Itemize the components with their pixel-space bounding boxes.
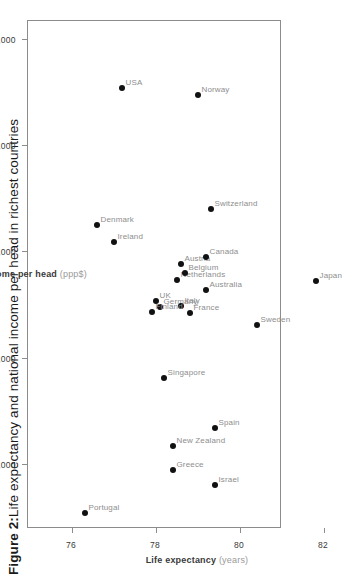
income-tick-label: 40,000 <box>0 35 20 45</box>
y-axis-title: Gross national income per head (ppp$) <box>0 269 54 279</box>
data-point-label: Finland <box>155 302 182 311</box>
data-point-label: Italy <box>185 295 200 304</box>
income-tick-label: 30,000 <box>0 248 20 258</box>
income-tick-label: 20,000 <box>0 460 20 470</box>
life-expectancy-tick-label: 82 <box>316 540 330 550</box>
income-tick-mark <box>22 464 27 465</box>
data-point <box>187 310 193 316</box>
data-point <box>212 482 218 488</box>
data-point <box>111 239 117 245</box>
data-point-label: Norway <box>202 85 230 94</box>
data-point <box>82 510 88 516</box>
x-axis-title-text: Life expectancy <box>146 555 217 565</box>
data-point-label: Denmark <box>101 214 135 223</box>
data-point-label: USA <box>126 77 143 86</box>
data-point-label: Canada <box>210 246 239 255</box>
income-tick-label: 35,000 <box>0 141 20 151</box>
life-expectancy-tick-label: 78 <box>148 540 162 550</box>
life-expectancy-tick-label: 80 <box>232 540 246 550</box>
life-expectancy-tick-mark <box>240 528 241 533</box>
income-tick-mark <box>22 145 27 146</box>
income-tick-mark <box>22 358 27 359</box>
data-point <box>170 443 176 449</box>
data-point-label: Belgium <box>189 262 219 271</box>
income-tick-label: 25,000 <box>0 354 20 364</box>
data-point-label: Greece <box>176 460 203 469</box>
data-point <box>149 309 155 315</box>
data-point-label: Sweden <box>260 314 290 323</box>
data-point <box>208 206 214 212</box>
income-tick-mark <box>22 252 27 253</box>
data-point-label: Australia <box>210 279 242 288</box>
x-axis-unit: (years) <box>219 555 248 565</box>
scatter-chart: 20,00025,00030,00035,00040,00076788082 P… <box>0 0 353 577</box>
y-axis-title-text: Gross national income per head <box>0 269 57 279</box>
data-point <box>254 322 260 328</box>
data-point-label: UK <box>160 291 171 300</box>
data-point <box>313 278 319 284</box>
data-point-label: Japan <box>319 271 342 280</box>
data-point-label: Israel <box>218 475 238 484</box>
data-point-label: New Zealand <box>176 435 225 444</box>
data-point-label: Singapore <box>168 367 206 376</box>
life-expectancy-tick-mark <box>324 528 325 533</box>
data-point <box>212 425 218 431</box>
data-point-label: Switzerland <box>214 198 257 207</box>
life-expectancy-tick-label: 76 <box>64 540 78 550</box>
data-point-label: Ireland <box>118 231 144 240</box>
y-axis-unit: (ppp$) <box>60 269 87 279</box>
data-point-label: Portugal <box>88 502 119 511</box>
x-axis-title: Life expectancy (years) <box>137 555 257 565</box>
income-tick-mark <box>22 39 27 40</box>
life-expectancy-tick-mark <box>156 528 157 533</box>
data-point-label: Spain <box>218 417 239 426</box>
life-expectancy-tick-mark <box>72 528 73 533</box>
